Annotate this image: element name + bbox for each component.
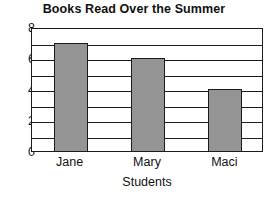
plot-area xyxy=(31,28,263,152)
bar-maci xyxy=(208,89,242,151)
x-axis-tick-label: Maci xyxy=(184,156,264,169)
bar-jane xyxy=(54,43,88,152)
bars-layer xyxy=(32,29,262,151)
x-axis-tick-label: Mary xyxy=(107,156,187,169)
bar-mary xyxy=(131,58,165,151)
bar-chart: Books Read Over the Summer 02468 JaneMar… xyxy=(0,0,268,198)
x-axis-tick-label: Jane xyxy=(30,156,110,169)
chart-title: Books Read Over the Summer xyxy=(0,2,268,16)
x-axis-label: Students xyxy=(31,176,263,189)
